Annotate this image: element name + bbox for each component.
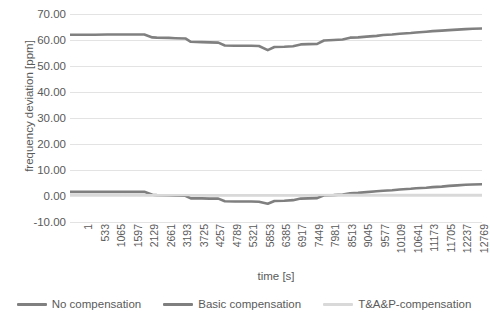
legend-label: T&A&P-compensation [358,298,471,310]
x-tick-label: 5853 [264,224,276,247]
x-tick-label: 3193 [181,224,193,247]
legend-item[interactable]: Basic compensation [163,298,301,310]
x-axis-tick-labels: 1533106515972129266131933725425747895321… [70,224,482,268]
x-tick-label: 6385 [280,224,292,247]
x-tick-label: 4257 [214,224,226,247]
plot-area [70,14,482,222]
y-tick-label: 50.00 [20,60,66,72]
x-tick-label: 10641 [412,224,424,253]
y-tick-label: 30.00 [20,112,66,124]
y-tick-label: 70.00 [20,8,66,20]
legend-swatch [323,303,353,306]
y-tick-label: 20.00 [20,138,66,150]
x-tick-label: 2661 [165,224,177,247]
y-tick-label: 60.00 [20,34,66,46]
chart-legend: No compensationBasic compensationT&A&P-c… [0,294,488,314]
x-tick-label: 10109 [395,224,407,253]
y-tick-label: 0.00 [20,190,66,202]
legend-swatch [163,303,193,306]
x-tick-label: 12769 [478,224,490,253]
y-tick-label: 40.00 [20,86,66,98]
x-tick-label: 533 [99,224,111,242]
x-tick-label: 1597 [132,224,144,247]
x-tick-label: 3725 [198,224,210,247]
x-axis-title: time [s] [70,270,482,282]
series-line [70,29,482,51]
x-tick-label: 9045 [362,224,374,247]
legend-label: Basic compensation [198,298,301,310]
legend-label: No compensation [52,298,142,310]
x-tick-label: 5321 [247,224,259,247]
x-tick-label: 7449 [313,224,325,247]
x-tick-label: 12237 [461,224,473,253]
legend-item[interactable]: No compensation [17,298,142,310]
x-tick-label: 2129 [148,224,160,247]
series-lines [70,14,482,222]
x-tick-label: 11173 [428,224,440,252]
x-tick-label: 1 [82,224,94,230]
y-tick-label: 10.00 [20,164,66,176]
legend-swatch [17,303,47,306]
x-tick-label: 7981 [329,224,341,247]
x-tick-label: 9577 [379,224,391,247]
y-tick-label: -10.00 [20,216,66,228]
y-axis-tick-labels: 70.0060.0050.0040.0030.0020.0010.000.00-… [20,14,66,222]
x-tick-label: 6917 [296,224,308,247]
x-tick-label: 11705 [445,224,457,252]
legend-item[interactable]: T&A&P-compensation [323,298,471,310]
x-tick-label: 8513 [346,224,358,247]
x-tick-label: 4789 [231,224,243,247]
x-tick-label: 1065 [115,224,127,247]
gridline [70,222,482,223]
